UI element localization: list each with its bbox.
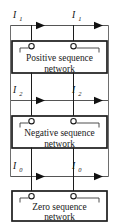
i0-right-label-group: I 0 [71, 160, 82, 173]
i0-right-subscript: 0 [78, 166, 82, 173]
i1-left-label-group: I 1 [12, 9, 22, 22]
negative-left-terminal [29, 119, 34, 124]
i1-left-arrow-head [36, 22, 45, 29]
positive-sequence-box: Positive sequence network [12, 41, 107, 74]
positive-label-line2: network [44, 64, 75, 74]
zero-sequence-box: Zero sequence network [12, 191, 107, 222]
positive-to-i2-drops [32, 73, 74, 101]
i0-left-arrow-head [36, 173, 45, 180]
zero-left-terminal [29, 194, 34, 199]
negative-label-line1: Negative sequence [24, 128, 95, 138]
zero-label-line1: Zero sequence [32, 202, 86, 212]
current-line-i0 [11, 173, 109, 180]
i0-right-label: I [71, 160, 76, 171]
zero-label-line2: network [44, 212, 75, 222]
i2-right-subscript: 2 [78, 90, 82, 97]
negative-to-i0-drops [32, 148, 74, 177]
zero-right-terminal [71, 194, 76, 199]
sequence-network-diagram: I 1 I 1 Positive sequence network [0, 0, 119, 222]
positive-label-line1: Positive sequence [26, 53, 93, 63]
positive-right-terminal [71, 44, 76, 49]
diagram-canvas: I 1 I 1 Positive sequence network [0, 0, 119, 222]
i0-left-label: I [12, 160, 17, 171]
i2-left-arrow-head [36, 97, 45, 104]
i0-right-arrow-head [94, 173, 103, 180]
i2-right-label: I [71, 84, 76, 95]
i1-right-subscript: 1 [78, 15, 81, 22]
i2-left-label-group: I 2 [12, 84, 23, 97]
current-line-i1 [11, 22, 109, 29]
i2-left-subscript: 2 [19, 90, 23, 97]
i2-left-label: I [12, 84, 17, 95]
i1-right-label: I [71, 9, 76, 20]
i1-right-arrow-head [94, 22, 103, 29]
i0-left-label-group: I 0 [12, 160, 23, 173]
i2-right-label-group: I 2 [71, 84, 82, 97]
i1-left-label: I [12, 9, 17, 20]
positive-left-terminal [29, 44, 34, 49]
i0-left-subscript: 0 [19, 166, 23, 173]
i1-left-subscript: 1 [19, 15, 22, 22]
i2-right-arrow-head [94, 97, 103, 104]
i1-right-label-group: I 1 [71, 9, 81, 22]
negative-sequence-box: Negative sequence network [12, 116, 107, 149]
negative-right-terminal [71, 119, 76, 124]
negative-label-line2: network [44, 139, 75, 149]
current-line-i2 [11, 97, 109, 104]
